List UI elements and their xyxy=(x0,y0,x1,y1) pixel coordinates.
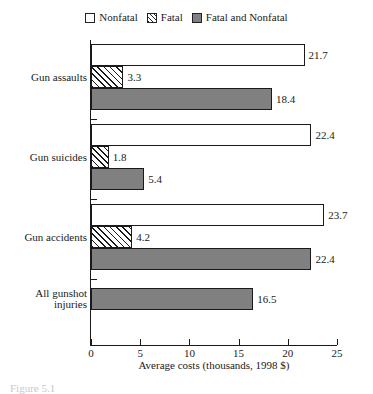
bar xyxy=(91,248,311,270)
bar-value-label: 23.7 xyxy=(328,210,347,221)
legend-label-nonfatal: Nonfatal xyxy=(99,12,137,23)
legend-item-fatal-and-nonfatal: Fatal and Nonfatal xyxy=(192,12,288,23)
bar-value-label: 21.7 xyxy=(309,50,328,61)
x-tick-20 xyxy=(288,339,289,345)
legend-label-fatal: Fatal xyxy=(161,12,183,23)
bar-value-label: 3.3 xyxy=(127,72,141,83)
group-separator-tick xyxy=(90,279,97,280)
bar-value-label: 16.5 xyxy=(257,294,276,305)
bar xyxy=(91,124,311,146)
category-label-line: Gun suicides xyxy=(1,152,87,163)
x-tick-label-25: 25 xyxy=(332,348,343,359)
x-tick-0 xyxy=(91,339,92,345)
x-tick-label-5: 5 xyxy=(137,348,143,359)
x-tick-10 xyxy=(189,339,190,345)
hatched-box-icon xyxy=(147,13,157,23)
x-axis-line xyxy=(90,345,337,346)
category-label-line: injuries xyxy=(1,299,87,310)
x-tick-label-20: 20 xyxy=(282,348,293,359)
bar-value-label: 4.2 xyxy=(136,232,150,243)
group-separator-tick xyxy=(90,199,97,200)
x-tick-15 xyxy=(239,339,240,345)
legend-item-fatal: Fatal xyxy=(147,12,183,23)
category-label-gun-suicides: Gun suicides xyxy=(1,152,87,163)
white-box-icon xyxy=(85,13,95,23)
category-label-all-gunshot-injuries: All gunshotinjuries xyxy=(1,288,87,310)
bar xyxy=(91,204,324,226)
category-label-gun-assaults: Gun assaults xyxy=(1,72,87,83)
bar-value-label: 5.4 xyxy=(148,174,162,185)
x-tick-label-0: 0 xyxy=(88,348,94,359)
bar-value-label: 18.4 xyxy=(276,94,295,105)
bar xyxy=(91,44,305,66)
category-label-gun-accidents: Gun accidents xyxy=(1,232,87,243)
bar xyxy=(91,146,109,168)
chart-legend: Nonfatal Fatal Fatal and Nonfatal xyxy=(0,12,373,23)
bar-value-label: 22.4 xyxy=(315,254,334,265)
category-label-line: Gun assaults xyxy=(1,72,87,83)
legend-item-nonfatal: Nonfatal xyxy=(85,12,137,23)
x-tick-25 xyxy=(337,339,338,345)
bar xyxy=(91,88,272,110)
category-axis-labels: Gun assaultsGun suicidesGun accidentsAll… xyxy=(0,40,87,345)
plot-area: 21.73.318.422.41.85.423.74.222.416.5 051… xyxy=(91,40,337,345)
group-separator-tick xyxy=(90,119,97,120)
bar xyxy=(91,66,123,88)
category-label-line: Gun accidents xyxy=(1,232,87,243)
gray-box-icon xyxy=(192,13,202,23)
bar xyxy=(91,168,144,190)
bar xyxy=(91,226,132,248)
x-tick-label-15: 15 xyxy=(233,348,244,359)
figure-caption: Figure 5.1 xyxy=(10,383,55,394)
bar-value-label: 1.8 xyxy=(113,152,127,163)
x-axis-title: Average costs (thousands, 1998 $) xyxy=(91,360,337,371)
bar xyxy=(91,288,253,310)
bar-value-label: 22.4 xyxy=(315,130,334,141)
x-tick-5 xyxy=(140,339,141,345)
legend-label-fatal-and-nonfatal: Fatal and Nonfatal xyxy=(206,12,288,23)
x-tick-label-10: 10 xyxy=(184,348,195,359)
